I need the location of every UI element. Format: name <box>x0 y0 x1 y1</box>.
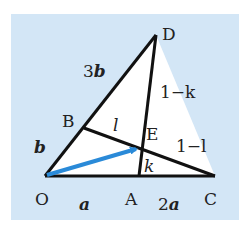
label-segment-ed: 1−k <box>160 82 196 102</box>
label-segment-ec: 1−l <box>176 136 207 156</box>
label-point-o: O <box>35 189 49 209</box>
label-segment-ac: 2a <box>158 194 180 214</box>
label-segment-bd: 3b <box>83 61 106 81</box>
label-point-a: A <box>124 189 138 209</box>
label-segment-ob: b <box>34 137 46 157</box>
label-segment-oa: a <box>79 194 90 214</box>
label-point-e: E <box>146 124 158 144</box>
label-segment-be: l <box>113 115 118 135</box>
label-segment-ae: k <box>144 156 154 176</box>
vector-diagram: D B E O A C 3b b a 2a l 1−l k 1−k <box>0 0 249 230</box>
label-point-d: D <box>162 24 176 44</box>
label-point-c: C <box>204 189 217 209</box>
label-point-b: B <box>62 111 75 131</box>
